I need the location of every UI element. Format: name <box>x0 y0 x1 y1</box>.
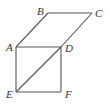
label-a: A <box>5 41 13 53</box>
geometry-diagram: A B C D E F <box>0 0 109 105</box>
label-f: F <box>64 88 72 100</box>
label-d: D <box>64 42 73 54</box>
label-c: C <box>95 7 103 19</box>
segment-ed <box>16 47 61 92</box>
label-e: E <box>5 88 13 100</box>
label-b: B <box>37 5 44 17</box>
segment-ab <box>16 13 48 47</box>
